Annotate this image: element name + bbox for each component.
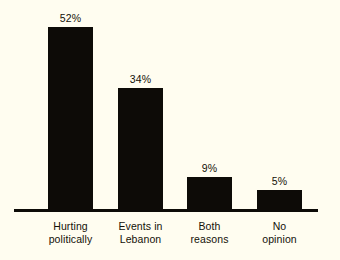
bar xyxy=(118,88,163,209)
category-label-1: Events in Lebanon xyxy=(108,220,173,246)
category-labels: Hurting politically Events in Lebanon Bo… xyxy=(0,214,340,260)
bar-value-label: 9% xyxy=(187,163,232,174)
bar xyxy=(187,177,232,209)
category-label-line: politically xyxy=(38,233,103,246)
bar-group-1: 34% xyxy=(118,0,163,209)
bar xyxy=(257,190,302,209)
category-label-line: reasons xyxy=(177,233,242,246)
bar-group-0: 52% xyxy=(48,0,93,209)
bar-group-2: 9% xyxy=(187,0,232,209)
category-label-line: opinion xyxy=(247,233,312,246)
category-label-line: Events in xyxy=(108,220,173,233)
category-label-3: No opinion xyxy=(247,220,312,246)
plot-area: 52% 34% 9% 5% xyxy=(0,0,340,209)
bar-chart: 52% 34% 9% 5% Hurting politically Events… xyxy=(0,0,340,260)
bar xyxy=(48,27,93,209)
category-label-line: Lebanon xyxy=(108,233,173,246)
category-label-0: Hurting politically xyxy=(38,220,103,246)
x-axis-line xyxy=(14,209,318,212)
category-label-line: Both xyxy=(177,220,242,233)
bar-value-label: 34% xyxy=(118,74,163,85)
bar-value-label: 5% xyxy=(257,176,302,187)
category-label-2: Both reasons xyxy=(177,220,242,246)
bar-value-label: 52% xyxy=(48,13,93,24)
category-label-line: Hurting xyxy=(38,220,103,233)
category-label-line: No xyxy=(247,220,312,233)
bar-group-3: 5% xyxy=(257,0,302,209)
